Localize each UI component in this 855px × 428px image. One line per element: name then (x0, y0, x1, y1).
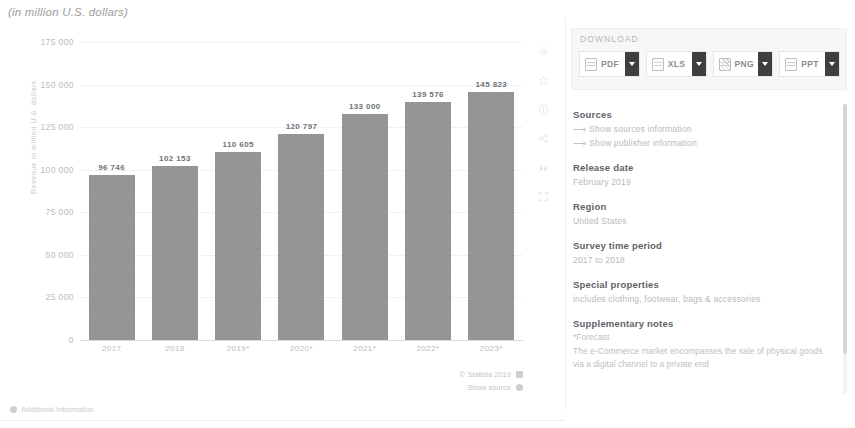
x-axis-tick-label: 2023* (460, 344, 523, 360)
download-panel: DOWNLOAD PDFXLSPNGPPT (571, 28, 847, 90)
x-axis-labels: 201720182019*2020*2021*2022*2023* (80, 344, 523, 360)
arrow-right-icon: ⟶ (573, 136, 586, 150)
bar-value-label: 110 605 (223, 140, 254, 149)
y-axis-tick-label: 0 (8, 335, 74, 345)
download-xls-label: XLS (668, 59, 685, 69)
bar-series: 96 746102 153110 605120 797133 000139 57… (80, 42, 523, 340)
download-ppt-main[interactable]: PPT (780, 52, 825, 76)
additional-information-link[interactable]: Additional Information (10, 405, 94, 414)
settings-icon[interactable] (538, 46, 549, 57)
show-source-row[interactable]: Show source (460, 381, 523, 394)
chevron-down-icon (629, 62, 635, 66)
info-circle-icon (10, 406, 17, 413)
chart-subtitle: (in million U.S. dollars) (8, 6, 128, 18)
show-source-label[interactable]: Show source (468, 383, 511, 392)
pane-divider (565, 18, 566, 410)
bar-column[interactable]: 133 000 (333, 42, 396, 340)
download-png-button[interactable]: PNG (713, 51, 774, 77)
download-pdf-label: PDF (601, 59, 619, 69)
download-png-main[interactable]: PNG (714, 52, 759, 76)
download-xls-main[interactable]: XLS (647, 52, 692, 76)
chart-card: Revenue in million U.S. dollars 025 0005… (8, 34, 553, 382)
y-axis-tick-label: 25 000 (8, 292, 74, 302)
show-publisher-information-link[interactable]: ⟶Show publisher information (573, 136, 823, 150)
region-value: United States (573, 214, 823, 228)
bar-value-label: 102 153 (159, 154, 191, 163)
bar-column[interactable]: 139 576 (396, 42, 459, 340)
copyright-text: © Statista 2019 (460, 370, 511, 379)
y-axis-tick-label: 100 000 (8, 165, 74, 175)
download-ppt-dropdown[interactable] (825, 52, 839, 76)
download-ppt-label: PPT (801, 59, 818, 69)
survey-time-period-heading: Survey time period (573, 239, 823, 253)
bar-value-label: 120 797 (286, 122, 318, 131)
release-date-value: February 2019 (573, 175, 823, 189)
plot-area: 96 746102 153110 605120 797133 000139 57… (80, 42, 523, 340)
bar-column[interactable]: 96 746 (80, 42, 143, 340)
details-scrollbar-thumb[interactable] (843, 104, 847, 354)
download-png-label: PNG (735, 59, 754, 69)
download-heading: DOWNLOAD (580, 34, 639, 44)
x-axis-tick-label: 2021* (333, 344, 396, 360)
survey-time-period-value: 2017 to 2018 (573, 253, 823, 267)
xls-file-icon (652, 58, 664, 71)
x-axis-tick-label: 2017 (80, 344, 143, 360)
x-axis-tick-label: 2022* (396, 344, 459, 360)
bar[interactable] (215, 152, 261, 340)
bottom-divider (0, 420, 565, 421)
png-file-icon (719, 58, 731, 71)
download-button-group: PDFXLSPNGPPT (579, 51, 840, 77)
download-xls-dropdown[interactable] (692, 52, 706, 76)
special-properties-heading: Special properties (573, 278, 823, 292)
details-pane: DOWNLOAD PDFXLSPNGPPT Sources ⟶Show sour… (565, 0, 855, 428)
y-axis-title: Revenue in million U.S. dollars (30, 80, 37, 194)
bar-column[interactable]: 102 153 (143, 42, 206, 340)
info-circle-icon[interactable] (516, 384, 523, 391)
bar-column[interactable]: 145 823 (460, 42, 523, 340)
metadata-list: Sources ⟶Show sources information ⟶Show … (573, 108, 823, 372)
show-sources-information-link[interactable]: ⟶Show sources information (573, 122, 823, 136)
bar-value-label: 96 746 (98, 163, 125, 172)
info-icon[interactable] (538, 104, 549, 115)
bar[interactable] (468, 92, 514, 340)
chevron-down-icon (696, 62, 702, 66)
x-axis-tick-label: 2019* (207, 344, 270, 360)
download-pdf-button[interactable]: PDF (579, 51, 640, 77)
supplementary-notes-body: The e-Commerce market encompasses the sa… (573, 345, 823, 372)
additional-information-label[interactable]: Additional Information (21, 405, 94, 414)
download-xls-button[interactable]: XLS (646, 51, 707, 77)
bar[interactable] (342, 114, 388, 340)
bar-column[interactable]: 110 605 (207, 42, 270, 340)
x-axis-tick-label: 2020* (270, 344, 333, 360)
bar[interactable] (278, 134, 324, 340)
expand-icon[interactable] (538, 191, 549, 202)
bar[interactable] (152, 166, 198, 340)
bar-column[interactable]: 120 797 (270, 42, 333, 340)
show-sources-label[interactable]: Show sources information (589, 124, 692, 134)
special-properties-value: includes clothing, footwear, bags & acce… (573, 292, 823, 306)
download-ppt-button[interactable]: PPT (779, 51, 840, 77)
star-icon[interactable] (538, 75, 549, 86)
download-pdf-main[interactable]: PDF (580, 52, 625, 76)
copyright-row: © Statista 2019 (460, 368, 523, 381)
ppt-file-icon (785, 58, 797, 71)
quote-icon[interactable] (538, 162, 549, 173)
pdf-file-icon (585, 58, 597, 71)
bar[interactable] (89, 175, 135, 340)
release-date-heading: Release date (573, 161, 823, 175)
bar-value-label: 145 823 (475, 80, 507, 89)
bar-value-label: 133 000 (349, 102, 381, 111)
download-pdf-dropdown[interactable] (625, 52, 639, 76)
chart-tool-rail[interactable] (538, 46, 549, 202)
bar[interactable] (405, 102, 451, 340)
y-axis-tick-label: 150 000 (8, 80, 74, 90)
chart-footer: © Statista 2019 Show source (460, 368, 523, 394)
y-axis-tick-label: 175 000 (8, 37, 74, 47)
show-publisher-label[interactable]: Show publisher information (589, 138, 697, 148)
share-icon[interactable] (538, 133, 549, 144)
statista-logo-icon (516, 371, 523, 378)
supplementary-notes-heading: Supplementary notes (573, 317, 823, 331)
sources-heading: Sources (573, 108, 823, 122)
download-png-dropdown[interactable] (758, 52, 772, 76)
y-axis-tick-label: 125 000 (8, 122, 74, 132)
